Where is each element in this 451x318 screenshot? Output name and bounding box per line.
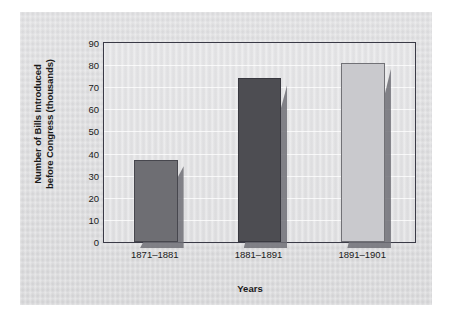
y-axis-tick-label: 40 — [69, 148, 99, 159]
y-axis-tick-label: 20 — [69, 192, 99, 203]
x-axis-tick-label: 1871–1881 — [103, 249, 207, 260]
y-axis-tick-label: 50 — [69, 126, 99, 137]
chart-figure: Number of Bills Introduced before Congre… — [0, 0, 451, 318]
y-axis-tick-label: 90 — [69, 38, 99, 49]
bar — [238, 78, 282, 242]
y-axis-tick-label: 10 — [69, 214, 99, 225]
x-axis-tick-label: 1891–1901 — [310, 249, 414, 260]
bar-body — [238, 78, 282, 242]
plot-area: 0102030405060708090 — [103, 42, 416, 243]
y-axis-tick-label: 80 — [69, 60, 99, 71]
y-axis-tick-label: 60 — [69, 104, 99, 115]
y-axis-tick-label: 30 — [69, 170, 99, 181]
x-axis-tick-label: 1881–1891 — [207, 249, 311, 260]
y-axis-title: Number of Bills Introduced before Congre… — [32, 19, 56, 229]
x-axis-title: Years — [95, 283, 405, 294]
bar — [134, 160, 178, 242]
y-axis-title-line-2: before Congress (thousands) — [44, 19, 56, 229]
y-axis-tick-label: 70 — [69, 82, 99, 93]
bar-body — [341, 63, 385, 242]
y-axis-title-line-1: Number of Bills Introduced — [32, 19, 44, 229]
y-axis-tick-label: 0 — [69, 237, 99, 248]
bar-body — [134, 160, 178, 242]
bar — [341, 63, 385, 242]
